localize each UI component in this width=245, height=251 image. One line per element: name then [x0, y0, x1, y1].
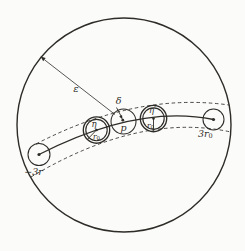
r0-right-sub: 0	[151, 124, 155, 130]
diagram-canvas: ε −3r η r0 δ p	[0, 0, 245, 251]
eta-prime-label: η′	[149, 105, 156, 115]
epsilon-radius-line	[45, 60, 116, 115]
three-r0-sub: 0	[209, 132, 213, 140]
r0-left-sub: 0	[97, 135, 101, 141]
delta-label: δ	[116, 95, 122, 106]
delta-arrow-line	[117, 108, 122, 117]
minus-three-r-label: −3r	[24, 166, 44, 177]
right-ball-center-dot	[152, 117, 155, 120]
delta-arrowhead-icon	[119, 115, 122, 120]
epsilon-label: ε	[73, 83, 78, 94]
p-label: p	[120, 122, 126, 133]
left-tube-ball: η r0	[83, 117, 109, 143]
eta-label: η	[91, 119, 97, 129]
figure: ε −3r η r0 δ p	[0, 0, 245, 251]
left-endpoint-center-dot	[37, 153, 40, 156]
r0-left-label: r0	[93, 132, 101, 142]
right-endpoint-center-dot	[212, 118, 215, 121]
